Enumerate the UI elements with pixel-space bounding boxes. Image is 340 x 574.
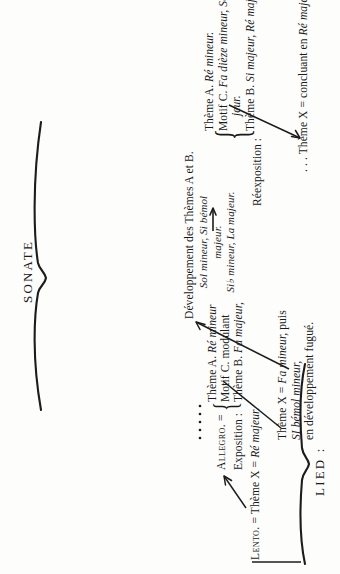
reexposition-line-1-plain: Thème A. (203, 82, 215, 131)
exposition-line-1: Thème A. Ré mineur (206, 302, 219, 402)
lento-label: Lento. (249, 527, 261, 560)
exposition-line-1-key: Ré mineur (206, 304, 218, 352)
reexposition-line-3-key: jeur. (230, 95, 242, 116)
developpement-key-2: majeur. (211, 186, 225, 298)
exposition-line-3-key: Fa majeur, (232, 302, 244, 353)
exposition-lines: Thème A. Ré mineur Motif C. modulant Thè… (206, 302, 245, 402)
theme-x-fugue-line-3: en développement fugué. (303, 310, 317, 440)
lento-theme: Thème X (249, 470, 261, 514)
theme-x-final-plain: Thème X = concluant en (297, 35, 309, 154)
lento-equals-2: = (249, 458, 261, 471)
theme-x-final-key: Ré majeur. (297, 0, 309, 35)
theme-x-fugue-tail: puis (276, 310, 288, 333)
reexposition-line-4-plain: Thème B. (244, 82, 256, 131)
developpement-key-1: Sol mineur, Si bémol (197, 186, 211, 298)
reexposition-lines: Thème A. Ré mineur. Motif C. Fa dièze mi… (203, 0, 257, 131)
developpement-key-3: Si♭ mineur, La majeur. (224, 186, 238, 298)
reexposition-line-2: Motif C. Fa dièze mineur, Sol ma- (217, 0, 231, 131)
lento-line: Lento. = Thème X = Ré majeur. (249, 408, 262, 560)
reexposition-line-4-key: Si majeur, Ré majeur. (244, 0, 256, 82)
theme-x-fugue-line-2: SI bémol mineur, (290, 310, 304, 440)
dotted-leader-dots (199, 405, 202, 440)
exposition-brace: { (208, 402, 242, 411)
scanned-plate: Lento. = Thème X = Ré majeur. Allegro. =… (0, 0, 340, 574)
reexposition-label: Réexposition : (251, 138, 264, 206)
theme-x-fugue-prefix: Thème X = (276, 384, 288, 440)
lento-key: Ré majeur. (249, 408, 261, 458)
allegro-line: Allegro. = (215, 415, 228, 471)
reexposition-line-3: jeur. (230, 0, 244, 131)
exposition-line-3: Thème B. Fa majeur, (232, 302, 245, 402)
exposition-label: Exposition : (232, 413, 245, 470)
allegro-equals: = (215, 415, 227, 425)
reexposition-line-1-key: Ré mineur. (203, 32, 215, 82)
developpement-heading: Développement des Thèmes A et B. (183, 151, 197, 319)
theme-x-fugue-key-1: Fa mineur, (276, 333, 288, 384)
reexposition-line-2-plain: Motif C. (217, 88, 229, 131)
exposition-line-2: Motif C. modulant (219, 302, 232, 402)
theme-x-fugue-line-1: Thème X = Fa mineur, puis (276, 310, 290, 440)
arrow-lento-to-allegro (224, 476, 246, 508)
diagram-ink-layer (0, 0, 340, 574)
reexposition-line-1: Thème A. Ré mineur. (203, 0, 217, 131)
theme-x-final-dots: . . . (297, 154, 309, 172)
sonate-label: SONATE (21, 240, 36, 303)
lied-label: LIED : (313, 446, 328, 496)
reexposition-line-4: Thème B. Si majeur, Ré majeur. (244, 0, 258, 131)
exposition-line-3-plain: Thème B. (232, 353, 244, 402)
exposition-line-1-plain: Thème A. (206, 353, 218, 402)
sonate-brace (35, 122, 46, 410)
theme-x-final-line: . . . Thème X = concluant en Ré majeur. (297, 0, 310, 172)
reexposition-line-2-key: Fa dièze mineur, Sol ma- (217, 0, 229, 88)
lento-equals-1: = (249, 514, 261, 526)
developpement-heading-text: Développement des Thèmes A et B. (183, 151, 197, 319)
developpement-keys: Sol mineur, Si bémol majeur. Si♭ mineur,… (197, 186, 238, 298)
exposition-line-2-plain: Motif C. modulant (219, 314, 231, 402)
allegro-label: Allegro. (215, 424, 227, 470)
theme-x-fugue-block: Thème X = Fa mineur, puis SI bémol mineu… (276, 310, 317, 440)
diagram-stage: Lento. = Thème X = Ré majeur. Allegro. =… (0, 0, 340, 574)
